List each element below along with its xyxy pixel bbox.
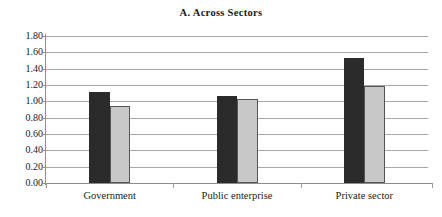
y-axis-tick-label: 0.40 [1, 145, 43, 155]
y-axis-tick-label: 1.80 [1, 31, 43, 41]
y-axis-tick-label: 0.00 [1, 178, 43, 188]
x-axis-category-label: Private sector [294, 190, 434, 202]
x-axis-category-label: Public enterprise [167, 190, 307, 202]
bar [237, 99, 258, 183]
x-axis-end-tick-mark [432, 183, 433, 188]
bar [110, 106, 131, 183]
bar [364, 86, 385, 183]
y-axis-tick-labels: 1.801.601.401.201.000.800.600.400.200.00 [0, 0, 43, 217]
x-axis-tick-mark [173, 183, 174, 188]
bar [344, 58, 365, 183]
y-axis-tick-label: 1.20 [1, 80, 43, 90]
y-axis-tick-label: 0.20 [1, 162, 43, 172]
y-axis-tick-label: 0.80 [1, 113, 43, 123]
bar-chart-figure: A. Across Sectors 1.801.601.401.201.000.… [0, 0, 442, 217]
y-axis-tick-label: 1.00 [1, 96, 43, 106]
gridline [46, 36, 428, 37]
x-axis-category-label: Government [40, 190, 180, 202]
y-axis-tick-label: 0.60 [1, 129, 43, 139]
gridline [46, 52, 428, 53]
y-axis-tick-label: 1.40 [1, 64, 43, 74]
x-axis-tick-mark [301, 183, 302, 188]
chart-title: A. Across Sectors [0, 7, 442, 18]
bar [89, 92, 110, 183]
y-axis-tick-label: 1.60 [1, 47, 43, 57]
plot-area [46, 36, 428, 183]
x-axis-tick-mark [46, 183, 47, 188]
gridline [46, 69, 428, 70]
gridline [46, 183, 432, 184]
bar [217, 96, 238, 183]
